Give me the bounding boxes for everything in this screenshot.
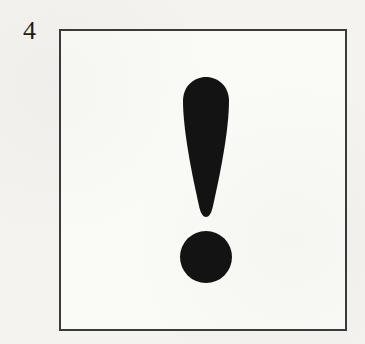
exclamation-icon [180, 77, 232, 283]
figure-box [59, 29, 347, 331]
exclamation-bar [183, 77, 229, 217]
exclamation-dot [180, 231, 232, 283]
item-number: 4 [23, 18, 36, 44]
scanned-page: 4 [0, 0, 365, 344]
